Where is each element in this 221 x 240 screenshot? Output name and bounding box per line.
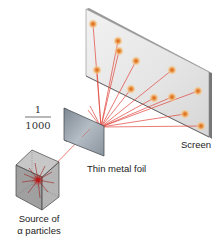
screen-face: [86, 9, 209, 137]
fraction-numerator: 1: [35, 104, 41, 115]
source-label-line2: α particles: [17, 225, 61, 236]
screen-label: Screen: [181, 139, 211, 150]
foil-label: Thin metal foil: [87, 163, 146, 174]
source-label-line1: Source of: [19, 213, 60, 224]
rutherford-diagram: 1 1000 Screen Thin metal foil Source o: [0, 0, 221, 240]
screen-edge: [209, 72, 212, 139]
fraction-label: 1 1000: [25, 104, 51, 131]
fraction-denominator: 1000: [25, 120, 50, 131]
alpha-source-cube: [16, 150, 59, 210]
